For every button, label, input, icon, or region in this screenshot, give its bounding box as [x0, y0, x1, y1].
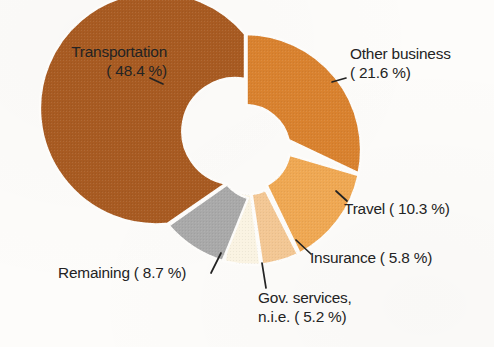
slice-texture-transportation	[40, 0, 245, 224]
slice-label-transportation-name: Transportation	[22, 42, 167, 61]
slice-label-other-business-name: Other business	[350, 44, 486, 63]
slice-label-other-business: Other business ( 21.6 %)	[350, 44, 486, 82]
slice-label-remaining: Remaining ( 8.7 %)	[58, 263, 186, 282]
slice-label-gov-services-name: Gov. services,	[258, 288, 352, 307]
slice-label-insurance: Insurance ( 5.8 %)	[310, 248, 432, 267]
slice-label-remaining-text: Remaining ( 8.7 %)	[58, 263, 186, 282]
slice-label-insurance-text: Insurance ( 5.8 %)	[310, 248, 432, 267]
slice-texture-other-business	[247, 34, 361, 173]
slice-label-transportation: Transportation ( 48.4 %)	[22, 42, 167, 80]
leader-line-gov-services	[262, 263, 266, 288]
slice-label-gov-services-value: n.i.e. ( 5.2 %)	[258, 307, 352, 326]
slice-label-travel-text: Travel ( 10.3 %)	[344, 199, 450, 218]
slice-label-transportation-value: ( 48.4 %)	[22, 61, 167, 80]
slice-label-other-business-value: ( 21.6 %)	[350, 63, 486, 82]
slice-label-gov-services: Gov. services, n.i.e. ( 5.2 %)	[258, 288, 352, 326]
donut-chart-figure: Transportation ( 48.4 %) Other business …	[0, 0, 494, 347]
slice-label-travel: Travel ( 10.3 %)	[344, 199, 450, 218]
